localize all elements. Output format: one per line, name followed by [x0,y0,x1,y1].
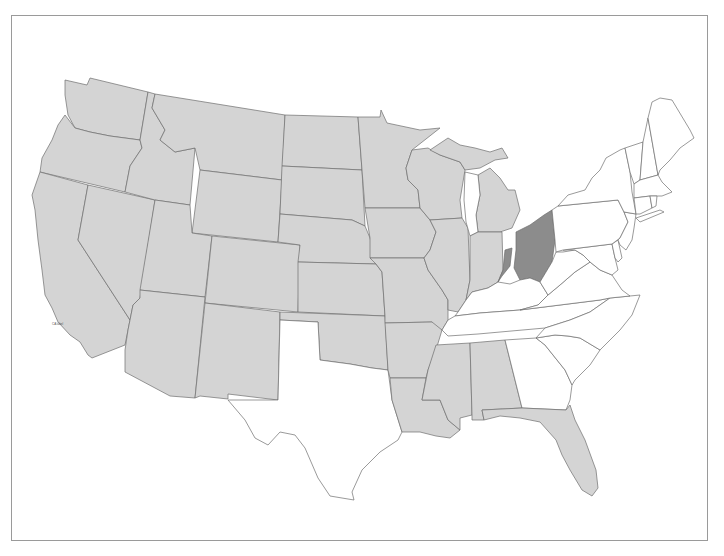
state-az[interactable] [125,290,205,398]
state-nd[interactable] [282,115,362,170]
state-mi-lower[interactable] [476,168,520,232]
state-wy[interactable] [192,170,282,242]
state-ks[interactable] [298,262,385,316]
us-map: CA label [0,0,724,556]
state-ia[interactable] [365,208,436,258]
state-ct[interactable] [634,196,652,214]
state-co[interactable] [205,236,300,312]
state-fl[interactable] [482,405,598,496]
map-annotation: CA label [52,322,64,326]
state-nm[interactable] [195,303,280,400]
